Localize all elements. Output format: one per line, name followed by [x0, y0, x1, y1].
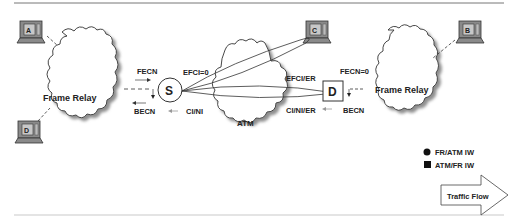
source-node-label: S [165, 84, 173, 98]
terminal-a-label: A [26, 27, 31, 34]
left-fecn-label: FECN [137, 67, 157, 76]
right-down-arrowhead [347, 93, 351, 97]
right-becn-label: BECN [343, 106, 364, 115]
frame-relay-right-label: Frame Relay [375, 85, 429, 95]
legend-circle-icon [424, 149, 431, 156]
atm-label: ATM [237, 119, 254, 128]
terminal-c-label: C [312, 27, 317, 34]
destination-node-label: D [328, 85, 337, 99]
frame-relay-cloud-right [376, 25, 439, 111]
left-down-arrowhead [151, 95, 155, 99]
right-fecn-label: FECN=0 [340, 67, 369, 76]
ci-ni-label: CI/NI [186, 107, 203, 116]
atm-cloud [212, 39, 287, 123]
terminal-c: C [303, 21, 331, 43]
left-becn-label: BECN [134, 107, 155, 116]
frame-relay-atm-diagram: Frame Relay ATM Frame Relay A B C D S D [0, 0, 517, 218]
terminal-b-label: B [465, 27, 470, 34]
ci-ni-er-label: CI/NI/ER [286, 106, 316, 115]
frame-relay-left-label: Frame Relay [43, 93, 97, 103]
terminal-a: A [17, 21, 45, 43]
frame-relay-cloud-left [47, 27, 118, 118]
efci-er-label: EFCI/ER [286, 74, 316, 83]
traffic-flow-label: Traffic Flow [447, 192, 489, 201]
link-a [47, 36, 58, 46]
legend-fr-atm-label: FR/ATM IW [435, 148, 475, 157]
legend-atm-fr-label: ATM/FR IW [435, 161, 475, 170]
link-d [38, 108, 50, 121]
legend-square-icon [424, 161, 431, 168]
terminal-d-label: D [24, 127, 29, 134]
terminal-b: B [456, 21, 484, 43]
efci-zero-label: EFCI=0 [183, 68, 209, 77]
terminal-d: D [15, 121, 43, 143]
